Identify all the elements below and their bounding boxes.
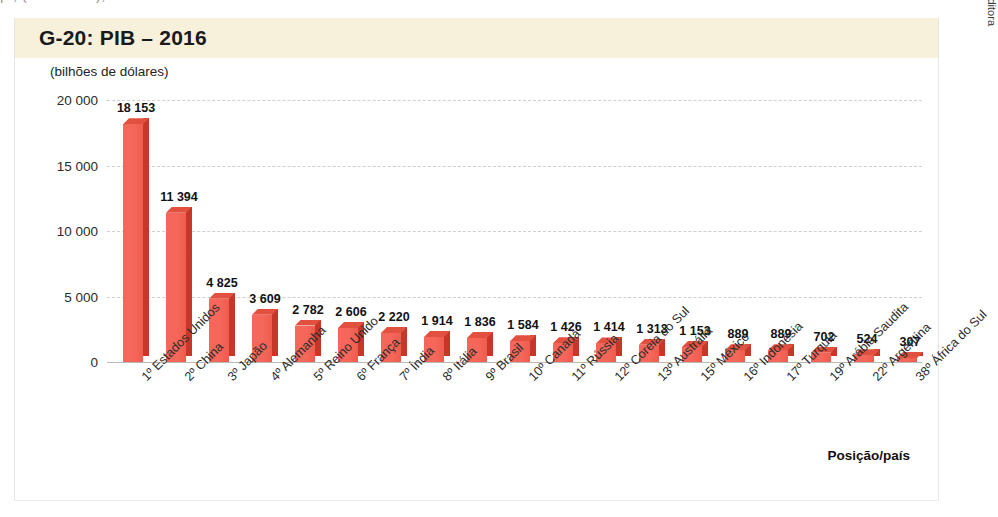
bar-value-label: 2 606 [335,305,366,319]
bar-value-label: 3 609 [249,292,280,306]
bar-value-label: 1 914 [421,314,452,328]
bar-value-label: 18 153 [117,101,155,115]
page-top-cut-text: p , (Alemanha), e desde então tem ocorri… [0,0,940,6]
y-axis-unit-label: (bilhões de dólares) [50,64,169,79]
chart-title: G-20: PIB – 2016 [39,26,207,50]
chart-figure: G-20: PIB – 2016 (bilhões de dólares) 05… [14,18,939,501]
y-tick-label: 10 000 [57,224,98,239]
bar-value-label: 4 825 [206,276,237,290]
bar-value-label: 11 394 [160,190,198,204]
image-credit: Ericson Guilherme Luciano/Arquivo da edi… [986,0,998,26]
x-axis-title: Posição/país [827,448,910,463]
y-tick-label: 5 000 [64,289,98,304]
bar[interactable]: 18 153 [123,118,149,362]
y-tick-label: 0 [90,355,98,370]
bar-front-face [123,124,143,362]
bar-value-label: 1 836 [464,315,495,329]
bar-value-label: 1 584 [507,318,538,332]
bar-side-face [272,309,278,356]
bar-side-face [229,293,235,356]
y-tick-label: 15 000 [57,158,98,173]
y-tick-label: 20 000 [57,93,98,108]
bar-value-label: 2 220 [378,310,409,324]
bar-value-label: 2 782 [292,303,323,317]
x-category-label: 38º África do Sul [913,307,990,384]
bar-side-face [143,118,149,356]
